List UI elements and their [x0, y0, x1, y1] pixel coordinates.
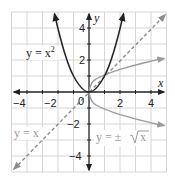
origin-label: 0 [78, 95, 84, 107]
graph: −4 −2 0 2 4 4 2 −2 −4 x y y = x2 y = x y… [0, 0, 175, 181]
y-axis-label: y [93, 11, 100, 25]
y-tick-neg2: −2 [67, 118, 80, 130]
x-tick-4: 4 [148, 97, 154, 109]
sqrt-equation: y = ± [96, 130, 122, 144]
y-tick-2: 2 [79, 54, 85, 66]
sqrt-curve-upper [89, 59, 164, 93]
y-tick-4: 4 [79, 22, 85, 34]
x-tick-2: 2 [117, 97, 123, 109]
x-axis-label: x [157, 76, 164, 90]
y-tick-neg4: −4 [69, 150, 82, 162]
parabola-equation: y = x2 [26, 45, 55, 60]
x-tick-neg4: −4 [13, 97, 26, 109]
identity-equation: y = x [14, 126, 39, 140]
x-tick-neg2: −2 [44, 97, 57, 109]
sqrt-radicand: x [140, 130, 146, 144]
